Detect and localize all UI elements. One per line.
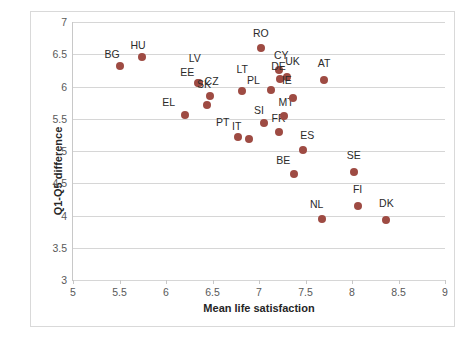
data-point[interactable] [116, 62, 124, 70]
data-point[interactable] [181, 111, 189, 119]
x-axis-tick [73, 280, 74, 284]
plot-area: Mean life satisfaction 33.544.555.566.57… [72, 22, 445, 281]
x-axis-tick-label: 7 [256, 286, 262, 298]
data-point[interactable] [195, 79, 203, 87]
data-point-label: UK [285, 55, 300, 67]
x-axis-tick [399, 280, 400, 284]
x-axis-tick [166, 280, 167, 284]
data-point[interactable] [280, 112, 288, 120]
data-point[interactable] [203, 101, 211, 109]
scatter-chart: Q1-Q5 difference Mean life satisfaction … [0, 0, 466, 342]
gridline-horizontal [73, 248, 445, 249]
data-point[interactable] [138, 53, 146, 61]
y-axis-tick-label: 3 [61, 274, 67, 286]
y-axis-tick-label: 5.5 [52, 113, 67, 125]
data-point[interactable] [290, 170, 298, 178]
x-axis-title: Mean life satisfaction [73, 302, 445, 314]
data-point-label: ES [300, 129, 314, 141]
data-point-label: EE [180, 66, 194, 78]
x-axis-tick-label: 5 [70, 286, 76, 298]
x-axis-tick [352, 280, 353, 284]
data-point-label: EL [162, 96, 175, 108]
y-axis-tick-label: 6 [61, 81, 67, 93]
gridline-horizontal [73, 22, 445, 23]
data-point[interactable] [299, 146, 307, 154]
data-point[interactable] [267, 86, 275, 94]
y-axis-tick-label: 7 [61, 16, 67, 28]
data-point[interactable] [350, 168, 358, 176]
y-axis-tick-label: 3.5 [52, 242, 67, 254]
gridline-horizontal [73, 151, 445, 152]
data-point-label: PL [247, 74, 260, 86]
y-axis-title: Q1-Q5 difference [52, 127, 64, 216]
data-point[interactable] [275, 66, 283, 74]
data-point[interactable] [382, 216, 390, 224]
y-axis-tick-label: 6.5 [52, 48, 67, 60]
data-point-label: DK [379, 197, 394, 209]
data-point[interactable] [206, 92, 214, 100]
y-axis-tick-label: 5 [61, 145, 67, 157]
y-axis-tick-label: 4 [61, 210, 67, 222]
data-point[interactable] [257, 44, 265, 52]
data-point-label: CZ [205, 75, 219, 87]
data-point[interactable] [275, 128, 283, 136]
gridline-horizontal [73, 54, 445, 55]
x-axis-tick-label: 6.5 [205, 286, 220, 298]
data-point[interactable] [238, 87, 246, 95]
gridline-horizontal [73, 119, 445, 120]
y-axis-tick-label: 4.5 [52, 177, 67, 189]
data-point[interactable] [289, 94, 297, 102]
data-point[interactable] [320, 76, 328, 84]
data-point-label: CY [274, 49, 289, 61]
data-point-label: SI [254, 104, 264, 116]
data-point[interactable] [260, 119, 268, 127]
x-axis-tick [120, 280, 121, 284]
x-axis-tick-label: 8 [349, 286, 355, 298]
x-axis-tick-label: 9 [442, 286, 448, 298]
x-axis-tick [445, 280, 446, 284]
data-point-label: BE [276, 154, 290, 166]
data-point-label: RO [253, 27, 269, 39]
gridline-horizontal [73, 216, 445, 217]
x-axis-tick [213, 280, 214, 284]
data-point[interactable] [354, 202, 362, 210]
data-point[interactable] [234, 133, 242, 141]
gridline-horizontal [73, 183, 445, 184]
data-point-label: PT [216, 116, 229, 128]
data-point-label: IT [232, 120, 241, 132]
x-axis-tick [259, 280, 260, 284]
data-point-label: AT [318, 57, 331, 69]
data-point-label: NL [310, 198, 323, 210]
x-axis-tick-label: 8.5 [391, 286, 406, 298]
data-point-label: LT [237, 63, 248, 75]
x-axis-tick-label: 6 [163, 286, 169, 298]
x-axis-tick-label: 5.5 [112, 286, 127, 298]
data-point-label: HU [131, 39, 146, 51]
data-point[interactable] [283, 73, 291, 81]
data-point[interactable] [245, 135, 253, 143]
x-axis-tick [306, 280, 307, 284]
gridline-horizontal [73, 87, 445, 88]
data-point[interactable] [318, 215, 326, 223]
x-axis-tick-label: 7.5 [298, 286, 313, 298]
data-point-label: FI [353, 183, 362, 195]
